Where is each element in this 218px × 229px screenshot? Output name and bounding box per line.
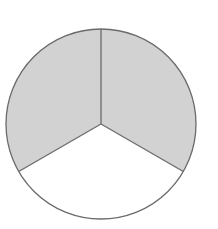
pie-figure-svg xyxy=(0,0,218,229)
figure-canvas xyxy=(0,0,218,229)
